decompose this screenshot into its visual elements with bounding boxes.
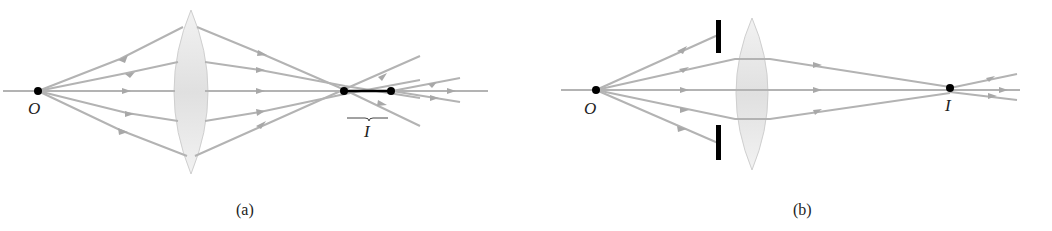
object-label-b: O bbox=[584, 99, 596, 118]
panel-a: O I (a) bbox=[3, 10, 488, 219]
panel-b: O I (b) bbox=[561, 18, 1020, 219]
image-label-b: I bbox=[944, 96, 952, 115]
image-point-b bbox=[946, 84, 954, 92]
optics-diagram: O I (a) bbox=[0, 0, 1052, 231]
object-point-a bbox=[34, 87, 42, 95]
object-label-a: O bbox=[28, 99, 40, 118]
lens-a bbox=[174, 10, 208, 174]
aperture-stop-top bbox=[716, 20, 721, 53]
object-point-b bbox=[592, 86, 600, 94]
caption-a: (a) bbox=[236, 201, 254, 219]
image-brace-a bbox=[347, 118, 388, 121]
image-label-a: I bbox=[363, 122, 371, 141]
lens-b bbox=[736, 18, 768, 170]
caption-b: (b) bbox=[793, 201, 812, 219]
aperture-stop-bottom bbox=[716, 125, 721, 160]
